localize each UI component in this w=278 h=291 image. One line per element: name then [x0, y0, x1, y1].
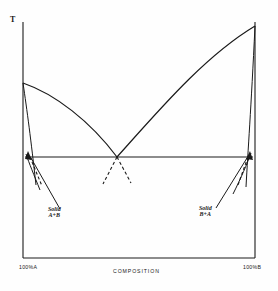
- metastable-liquidus-a-extension: [117, 157, 131, 183]
- solidus-a-curve: [23, 83, 36, 185]
- x-tick-label-right: 100%B: [243, 265, 261, 270]
- y-axis-title: T: [10, 16, 15, 24]
- leader-line-solid-b-plus-a: [216, 158, 247, 208]
- phase-diagram-canvas: [0, 0, 278, 291]
- phase-diagram-figure: T COMPOSITION 100%A 100%B Solid A+B Soli…: [0, 0, 278, 291]
- arrowhead-right-corner: [246, 151, 253, 160]
- x-axis-title: COMPOSITION: [113, 269, 160, 274]
- metastable-liquidus-b-extension: [103, 157, 117, 184]
- region-label-solid-a-plus-b-line2: A+B: [48, 212, 61, 218]
- x-tick-label-left: 100%A: [19, 265, 37, 270]
- region-label-solid-b-plus-a-line2: B+A: [199, 211, 212, 217]
- liquidus-a-curve: [23, 83, 117, 157]
- liquidus-b-curve: [117, 26, 255, 157]
- region-label-solid-a-plus-b: Solid A+B: [48, 206, 61, 219]
- region-label-solid-b-plus-a: Solid B+A: [199, 205, 212, 218]
